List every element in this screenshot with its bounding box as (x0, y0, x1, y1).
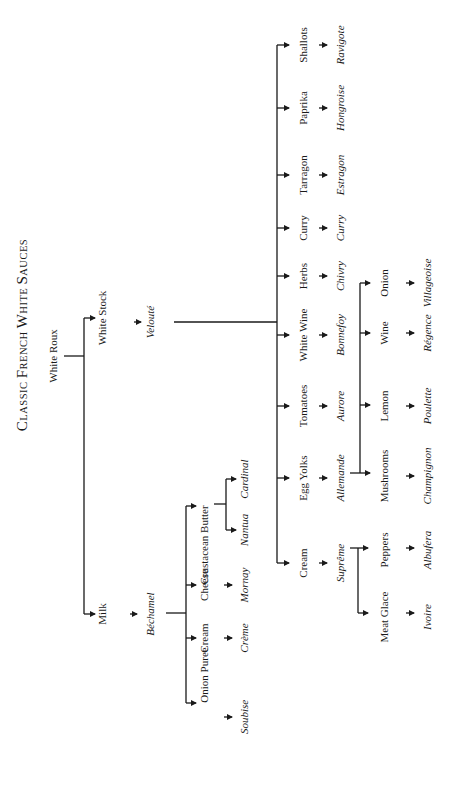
sauce-supreme: Suprême (334, 544, 346, 583)
node-veloute: Velouté (144, 305, 156, 338)
sauce-tree-diagram: CLASSIC FRENCH WHITE SAUCES White Roux W… (0, 0, 457, 789)
ingredient-onion-puree: Onion Puree (198, 647, 210, 702)
veloute-sauce-arrows (319, 45, 327, 563)
sauce-estragon: Estragon (334, 154, 346, 196)
ingredient-meat-glace: Meat Glace (378, 591, 390, 642)
sauce-bonnefoy: Bonnefoy (334, 314, 346, 356)
node-milk: Milk (96, 603, 108, 625)
sauce-poulette: Poulette (421, 388, 433, 426)
ingredient-cream-v: Cream (297, 548, 309, 578)
ingredient-lemon: Lemon (378, 390, 390, 422)
sauce-curry: Curry (334, 215, 346, 241)
ingredient-egg-yolks: Egg Yolks (297, 455, 309, 500)
veloute-child-arrows (277, 45, 289, 563)
diagram-title: CLASSIC FRENCH WHITE SAUCES (14, 239, 30, 431)
node-white-stock: White Stock (96, 290, 108, 345)
ingredient-crustacean-butter: Crustacean Butter (198, 505, 210, 584)
sauce-soubise: Soubise (238, 700, 250, 734)
ingredient-peppers: Peppers (378, 533, 390, 568)
node-white-roux: White Roux (47, 329, 59, 383)
sauce-ravigote: Ravigote (334, 25, 346, 65)
sauce-regence: Régence (421, 314, 433, 352)
sauce-nantua: Nantua (238, 513, 250, 547)
sauce-hongroise: Hongroise (334, 85, 346, 132)
sauce-ivoire: Ivoire (421, 604, 433, 631)
sauce-albufera: Albufera (421, 530, 433, 570)
sauce-cardinal: Cardinal (238, 459, 250, 498)
sauce-champignon: Champignon (421, 447, 433, 504)
node-bechamel: Béchamel (144, 592, 156, 635)
sauce-villageoise: Villageoise (421, 259, 433, 308)
ingredient-wine: Wine (378, 321, 390, 344)
ingredient-paprika: Paprika (297, 91, 309, 125)
ingredient-cream-b: Cream (198, 623, 210, 653)
ingredient-herbs: Herbs (297, 263, 309, 289)
sauce-allemande: Allemande (334, 454, 346, 502)
sauce-creme: Crème (238, 623, 250, 652)
ingredient-white-wine: White Wine (297, 308, 309, 361)
ingredient-shallots: Shallots (297, 27, 309, 62)
ingredient-tomatoes: Tomatoes (297, 385, 309, 428)
ingredient-tarragon: Tarragon (297, 155, 309, 195)
sauce-mornay: Mornay (238, 567, 250, 603)
sauce-chivry: Chivry (334, 261, 346, 291)
ingredient-mushrooms: Mushrooms (378, 450, 390, 503)
ingredient-onion: Onion (378, 269, 390, 297)
sauce-aurore: Aurore (334, 391, 346, 422)
ingredient-curry: Curry (297, 215, 309, 241)
